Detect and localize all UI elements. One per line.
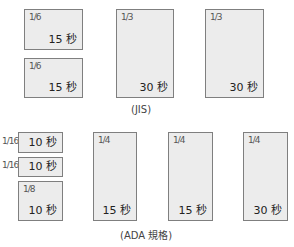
jis-box-third-2: 1/3 30 秒 (205, 9, 264, 98)
fraction-label: 1/4 (173, 135, 184, 145)
jis-caption: (JIS) (131, 104, 151, 115)
fraction-label: 1/6 (29, 12, 40, 22)
fraction-label: 1/3 (121, 12, 132, 22)
duration-label: 15 秒 (49, 30, 78, 46)
ada-box-quarter-2: 1/4 15 秒 (168, 132, 213, 221)
duration-label: 10 秒 (29, 157, 58, 173)
fraction-label: 1/4 (248, 135, 259, 145)
ada-caption: (ADA 規格) (120, 227, 172, 242)
duration-label: 15 秒 (179, 201, 208, 217)
ada-box-sixteenth-1: 10 秒 (18, 132, 63, 153)
ada-outside-fraction-1: 1/16 (2, 136, 18, 146)
duration-label: 15 秒 (103, 201, 132, 217)
duration-label: 10 秒 (29, 133, 58, 149)
jis-box-third-1: 1/3 30 秒 (116, 9, 174, 98)
ada-box-quarter-1: 1/4 15 秒 (93, 132, 137, 221)
ada-outside-fraction-2: 1/16 (2, 160, 18, 170)
fraction-label: 1/6 (29, 61, 40, 71)
duration-label: 30 秒 (254, 201, 283, 217)
fraction-label: 1/8 (23, 184, 34, 194)
ada-box-sixteenth-2: 10 秒 (18, 157, 63, 177)
jis-box-sixth-1: 1/6 15 秒 (24, 9, 83, 50)
duration-label: 15 秒 (49, 78, 78, 94)
ada-box-eighth: 1/8 10 秒 (18, 181, 63, 221)
ada-box-quarter-3: 1/4 30 秒 (243, 132, 288, 221)
fraction-label: 1/3 (210, 12, 221, 22)
duration-label: 30 秒 (140, 78, 169, 94)
fraction-label: 1/4 (98, 135, 109, 145)
duration-label: 10 秒 (29, 201, 58, 217)
jis-box-sixth-2: 1/6 15 秒 (24, 58, 83, 98)
duration-label: 30 秒 (230, 78, 259, 94)
